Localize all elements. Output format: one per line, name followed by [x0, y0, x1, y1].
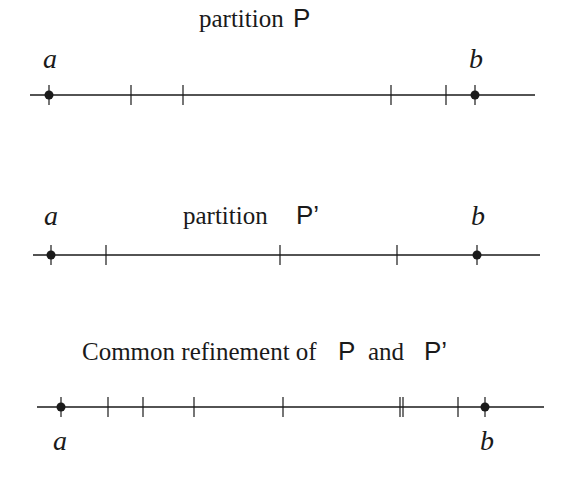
endpoint-label-a: a: [44, 200, 58, 231]
panel-common-refinement: Common refinement of P and P’ a b: [37, 336, 544, 456]
endpoint-label-a: a: [53, 425, 67, 456]
partition-diagram: partition P a b partition P’ a b Common …: [0, 0, 571, 478]
panel-title-text: partition: [199, 5, 284, 32]
endpoint-dot-a: [47, 251, 56, 260]
partition-symbol-p-prime: P’: [424, 336, 447, 366]
panel-partition-p-prime: partition P’ a b: [33, 200, 540, 265]
endpoint-dot-a: [57, 403, 66, 412]
endpoint-label-b: b: [480, 425, 494, 456]
panel-title-text: partition: [183, 202, 268, 229]
endpoint-dot-b: [473, 251, 482, 260]
refinement-title-prefix: Common refinement of: [82, 338, 317, 365]
partition-symbol: P: [293, 3, 310, 33]
endpoint-label-b: b: [471, 200, 485, 231]
panel-partition-p: partition P a b: [30, 3, 535, 105]
refinement-title-and: and: [368, 338, 405, 365]
partition-symbol-p: P: [338, 336, 355, 366]
endpoint-dot-a: [45, 91, 54, 100]
endpoint-dot-b: [481, 403, 490, 412]
endpoint-label-a: a: [43, 43, 57, 74]
partition-symbol: P’: [296, 200, 319, 230]
endpoint-dot-b: [471, 91, 480, 100]
endpoint-label-b: b: [469, 43, 483, 74]
